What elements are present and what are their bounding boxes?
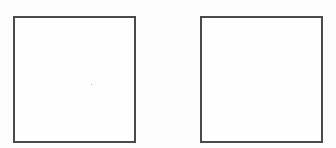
right-box bbox=[200, 16, 323, 143]
center-dot bbox=[91, 84, 92, 85]
left-box bbox=[13, 16, 136, 143]
